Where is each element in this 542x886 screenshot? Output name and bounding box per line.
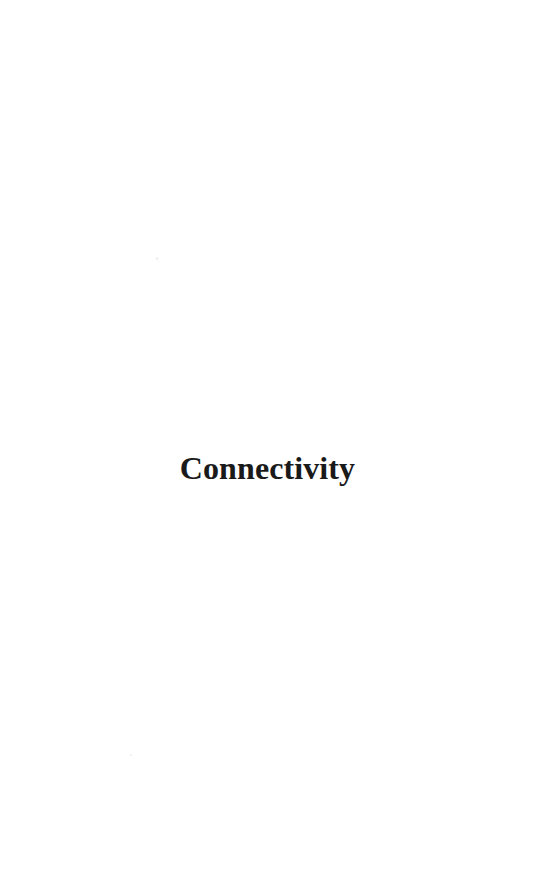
scan-speck — [133, 757, 134, 758]
scanned-page: Connectivity — [0, 0, 542, 886]
scan-speck — [156, 257, 158, 260]
part-title-block: Connectivity — [0, 427, 542, 510]
scan-speck — [158, 261, 159, 262]
page-title: Connectivity — [180, 448, 355, 488]
scan-speck — [130, 754, 132, 756]
